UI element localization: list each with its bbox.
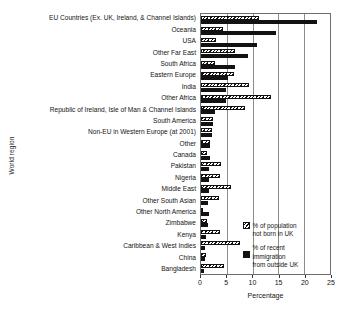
category-label: Zimbabwe <box>12 218 198 229</box>
bar-population-not-born-uk <box>201 174 220 178</box>
bar-recent-immigration <box>201 167 209 171</box>
bar-population-not-born-uk <box>201 196 219 200</box>
bar-population-not-born-uk <box>201 185 231 189</box>
bar-recent-immigration <box>201 122 213 126</box>
bar-population-not-born-uk <box>201 264 224 268</box>
bar-population-not-born-uk <box>201 106 245 110</box>
bar-population-not-born-uk <box>201 27 223 31</box>
legend-label-population-line2: not born in UK <box>253 230 294 237</box>
hatched-swatch-icon <box>243 222 250 229</box>
bar-population-not-born-uk <box>201 49 235 53</box>
category-label: Canada <box>12 150 198 161</box>
category-label: Caribbean & West Indies <box>12 241 198 252</box>
category-label: Eastern Europe <box>12 70 198 81</box>
bar-recent-immigration <box>201 88 226 92</box>
category-label: Republic of Ireland, Isle of Man & Chann… <box>12 104 198 115</box>
x-tick <box>305 275 306 278</box>
category-label: Other <box>12 138 198 149</box>
category-label: Other Far East <box>12 47 198 58</box>
legend-label-immigration-line3: from outside UK <box>253 261 299 268</box>
bar-recent-immigration <box>201 178 209 182</box>
bar-recent-immigration <box>201 110 215 114</box>
bar-row <box>201 70 330 81</box>
legend: % of population not born in UK % of rece… <box>243 222 329 275</box>
bar-row <box>201 138 330 149</box>
category-label: USA <box>12 36 198 47</box>
bar-recent-immigration <box>201 269 204 273</box>
bar-population-not-born-uk <box>201 253 206 257</box>
bar-row <box>201 116 330 127</box>
legend-entry-population: % of population not born in UK <box>243 222 329 238</box>
bar-row <box>201 161 330 172</box>
solid-swatch-icon <box>243 251 250 258</box>
x-axis-tick-labels: 0510152025 <box>200 279 331 289</box>
bar-row <box>201 48 330 59</box>
x-tick-label: 25 <box>327 279 335 286</box>
legend-label-immigration-line2: immigration <box>253 253 286 260</box>
bar-recent-immigration <box>201 54 248 58</box>
legend-label-immigration-line1: % of recent <box>253 244 285 251</box>
bar-population-not-born-uk <box>201 128 212 132</box>
category-label: South America <box>12 116 198 127</box>
category-label: South Africa <box>12 59 198 70</box>
bar-population-not-born-uk <box>201 95 271 99</box>
bar-recent-immigration <box>201 31 276 35</box>
x-tick <box>279 275 280 278</box>
bar-row <box>201 183 330 194</box>
bar-chart: World region EU Countries (Ex. UK, Irela… <box>0 0 347 324</box>
x-axis-title: Percentage <box>200 292 331 299</box>
bar-row <box>201 150 330 161</box>
category-label: Middle East <box>12 184 198 195</box>
legend-label-population-line1: % of population <box>253 222 297 229</box>
x-tick-label: 20 <box>301 279 309 286</box>
category-label: Oceania <box>12 24 198 35</box>
bar-population-not-born-uk <box>201 16 259 20</box>
bar-recent-immigration <box>201 156 210 160</box>
bar-row <box>201 37 330 48</box>
bar-population-not-born-uk <box>201 38 216 42</box>
bar-row <box>201 127 330 138</box>
bar-population-not-born-uk <box>201 83 249 87</box>
category-label: Other South Asian <box>12 195 198 206</box>
x-tick-label: 10 <box>248 279 256 286</box>
x-tick <box>200 275 201 278</box>
bar-row <box>201 104 330 115</box>
legend-entry-immigration: % of recent immigration from outside UK <box>243 244 329 269</box>
bar-recent-immigration <box>201 20 317 24</box>
x-tick-label: 0 <box>198 279 202 286</box>
bar-recent-immigration <box>201 246 205 250</box>
bar-recent-immigration <box>201 212 209 216</box>
x-tick <box>331 275 332 278</box>
bar-recent-immigration <box>201 99 226 103</box>
x-tick-label: 5 <box>224 279 228 286</box>
bar-population-not-born-uk <box>201 72 234 76</box>
category-label: Other Africa <box>12 93 198 104</box>
bar-row <box>201 206 330 217</box>
category-label: Other North America <box>12 207 198 218</box>
category-label: Non-EU in Western Europe (at 2001) <box>12 127 198 138</box>
x-tick-label: 15 <box>275 279 283 286</box>
bar-recent-immigration <box>201 201 208 205</box>
bar-recent-immigration <box>201 223 208 227</box>
bar-recent-immigration <box>201 133 212 137</box>
category-label: Bangladesh <box>12 264 198 275</box>
bar-population-not-born-uk <box>201 162 221 166</box>
bar-population-not-born-uk <box>201 151 207 155</box>
bar-recent-immigration <box>201 235 206 239</box>
bar-population-not-born-uk <box>201 61 215 65</box>
category-label: China <box>12 252 198 263</box>
bar-recent-immigration <box>201 189 209 193</box>
bar-population-not-born-uk <box>201 208 203 212</box>
bar-population-not-born-uk <box>201 117 213 121</box>
x-tick <box>226 275 227 278</box>
bar-row <box>201 93 330 104</box>
bar-row <box>201 195 330 206</box>
bar-population-not-born-uk <box>201 219 207 223</box>
bar-row <box>201 14 330 25</box>
category-label: India <box>12 81 198 92</box>
bar-row <box>201 25 330 36</box>
category-label: EU Countries (Ex. UK, Ireland, & Channel… <box>12 13 198 24</box>
bar-recent-immigration <box>201 76 228 80</box>
category-label: Pakistan <box>12 161 198 172</box>
legend-label-immigration: % of recent immigration from outside UK <box>253 244 299 269</box>
